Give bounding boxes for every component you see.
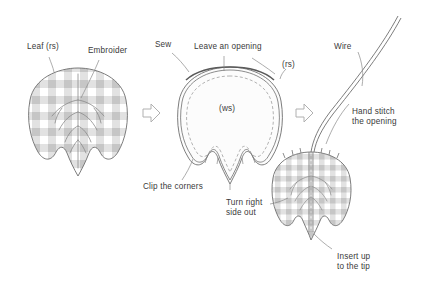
label-embroider: Embroider xyxy=(88,46,127,56)
label-clip-the-corners: Clip the corners xyxy=(143,182,203,192)
label-hand-stitch-line1: Hand stitch xyxy=(352,107,395,117)
label-ws: (ws) xyxy=(219,104,235,114)
label-wire: Wire xyxy=(334,42,351,52)
label-turn-right-side-out-line2: side out xyxy=(226,208,256,218)
label-leave-an-opening: Leave an opening xyxy=(194,42,262,52)
label-insert-up-line2: to the tip xyxy=(337,262,370,272)
label-hand-stitch-line2: the opening xyxy=(352,117,397,127)
label-turn-right-side-out-line1: Turn right xyxy=(226,198,262,208)
label-rs: (rs) xyxy=(282,60,295,70)
label-sew: Sew xyxy=(155,40,171,50)
sewing-instruction-diagram: Leaf (rs) Embroider Sew Leave an opening… xyxy=(0,0,422,287)
label-insert-up-line1: Insert up xyxy=(337,252,370,262)
label-leaf-rs: Leaf (rs) xyxy=(27,42,59,52)
